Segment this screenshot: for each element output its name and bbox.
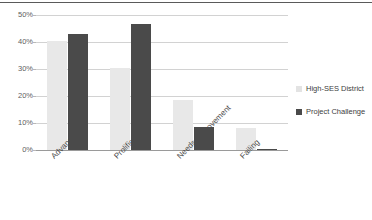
y-axis: 50%40%30%20%10%0%	[0, 15, 33, 150]
bar[interactable]	[257, 149, 277, 150]
y-axis-tick-label: 0%	[1, 146, 33, 154]
y-axis-tick-label: 30%	[1, 65, 33, 73]
y-axis-tick-label: 10%	[1, 119, 33, 127]
bar[interactable]	[131, 24, 151, 150]
bar[interactable]	[47, 41, 67, 150]
grouped-bar-chart: 50%40%30%20%10%0% AdvancedProlificNeeds …	[0, 0, 372, 220]
bar-group	[225, 15, 288, 150]
legend-item[interactable]: High-SES District	[296, 84, 372, 93]
legend-label: Project Challenge	[306, 108, 365, 116]
bar-group	[162, 15, 225, 150]
y-axis-tick-label: 20%	[1, 92, 33, 100]
legend-color-swatch-icon	[296, 109, 302, 115]
legend-color-swatch-icon	[296, 86, 302, 92]
legend-label: High-SES District	[306, 85, 364, 93]
chart-legend: High-SES DistrictProject Challenge	[296, 84, 372, 130]
bar-group	[99, 15, 162, 150]
y-axis-tick-label: 40%	[1, 38, 33, 46]
y-axis-tick-label: 50%	[1, 11, 33, 19]
bar-group	[36, 15, 99, 150]
legend-item[interactable]: Project Challenge	[296, 107, 372, 116]
